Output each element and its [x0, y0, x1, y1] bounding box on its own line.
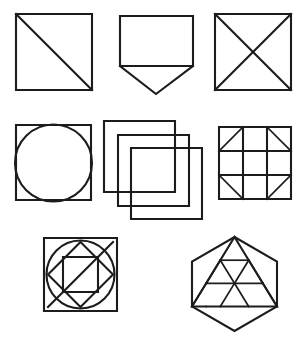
figure-1-square-with-diagonal [16, 14, 92, 90]
rectangle-outline [120, 16, 193, 66]
figure-8-hexagon-with-subdivided-triangle [192, 237, 277, 331]
figure-3-square-with-both-diagonals [215, 14, 291, 90]
grid-outline [219, 127, 291, 199]
figure-6-grid-with-corner-diagonals [219, 127, 291, 199]
subdivision-inner-line-3 [220, 260, 234, 283]
diagonal-line [16, 14, 92, 90]
square-front [131, 148, 202, 219]
figure-5-three-overlapping-squares [104, 121, 202, 219]
square-back [104, 121, 175, 192]
downward-triangle [120, 66, 193, 94]
square-middle [118, 135, 189, 206]
subdivision-inner-line-1 [220, 283, 234, 306]
corner-diagonal-bottom-left [219, 175, 243, 199]
corner-diagonal-top-right [267, 127, 291, 151]
subdivision-right-line-1 [249, 260, 263, 283]
inscribed-triangle [192, 237, 277, 307]
inscribed-circle [15, 125, 92, 202]
corner-diagonal-bottom-right [267, 175, 291, 199]
figure-7-nested-square-circle-diamond [44, 238, 117, 311]
figure-4-square-with-inscribed-circle [15, 125, 92, 202]
subdivision-inner-line-2 [235, 283, 249, 306]
geometric-figure-sheet: Geometric line figure set [0, 0, 307, 339]
subdivision-inner-line-4 [235, 260, 249, 283]
diagonal-line-bl-tr [48, 242, 113, 307]
subdivision-right-line-2 [263, 283, 277, 306]
subdivision-left-line-1 [206, 260, 220, 283]
figure-2-rectangle-with-triangle [120, 16, 193, 94]
figure-canvas [0, 0, 307, 339]
corner-diagonal-top-left [219, 127, 243, 151]
subdivision-left-line-2 [192, 283, 206, 306]
